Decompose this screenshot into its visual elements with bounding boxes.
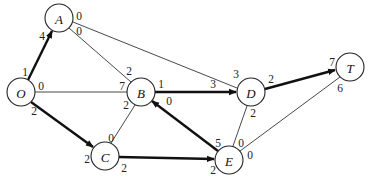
- label-b-c-from: 2: [123, 99, 129, 111]
- label-d-e-to: 0: [238, 137, 244, 149]
- node-a-label: A: [54, 12, 63, 27]
- network-diagram: O A B C D E T 1 4 0 7 2 2 0 2 0 3 1 3 2 …: [0, 0, 372, 182]
- node-o-label: O: [16, 86, 26, 101]
- label-a-b-from: 0: [76, 25, 82, 37]
- label-e-t-to: 6: [337, 82, 343, 94]
- label-a-d-from: 0: [76, 10, 82, 22]
- label-o-b-from: 0: [38, 80, 44, 92]
- edge-c-e: [119, 157, 214, 159]
- node-d: D: [237, 78, 265, 106]
- node-e-label: E: [224, 154, 233, 169]
- node-t: T: [336, 53, 364, 81]
- label-c-e-from: 2: [121, 162, 127, 174]
- edge-d-t: [265, 70, 335, 89]
- node-c-label: C: [101, 150, 110, 165]
- label-a-b-to: 2: [126, 65, 132, 77]
- node-b-label: B: [137, 86, 145, 101]
- label-o-c-from: 2: [31, 105, 37, 117]
- label-d-t-from: 2: [268, 73, 274, 85]
- node-c: C: [91, 142, 119, 170]
- label-c-e-to: 2: [210, 164, 216, 176]
- label-e-t-from: 0: [247, 149, 253, 161]
- label-o-b-to: 7: [119, 80, 125, 92]
- label-b-d-from: 1: [158, 78, 164, 90]
- label-o-a-to: 4: [39, 30, 45, 42]
- label-b-d-to: 3: [210, 78, 216, 90]
- label-d-e-from: 2: [250, 107, 256, 119]
- node-d-label: D: [245, 86, 256, 101]
- label-o-c-to: 2: [84, 153, 90, 165]
- node-a: A: [45, 4, 73, 32]
- graph-canvas: O A B C D E T 1 4 0 7 2 2 0 2 0 3 1 3 2 …: [0, 0, 372, 182]
- node-t-label: T: [346, 61, 354, 76]
- label-e-b-from: 5: [215, 137, 221, 149]
- label-o-a-from: 1: [22, 66, 28, 78]
- node-o: O: [7, 78, 35, 106]
- label-a-d-to: 3: [233, 68, 239, 80]
- label-e-b-to: 0: [166, 95, 172, 107]
- edge-e-b: [152, 101, 218, 151]
- node-b: B: [127, 78, 155, 106]
- edge-o-c: [31, 102, 93, 147]
- node-e: E: [215, 146, 243, 174]
- label-d-t-to: 7: [329, 56, 335, 68]
- label-b-c-to: 0: [108, 132, 114, 144]
